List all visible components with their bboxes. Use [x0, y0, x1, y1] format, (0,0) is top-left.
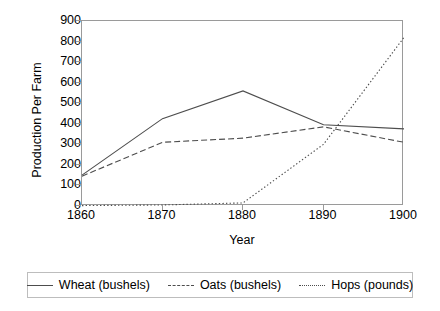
x-tick-label: 1870	[132, 209, 192, 222]
legend-item[interactable]: Wheat (bushels)	[27, 278, 150, 292]
legend-line-icon	[168, 281, 194, 289]
y-tick-label: 700	[37, 55, 81, 68]
series-line	[82, 127, 404, 176]
series-layer	[82, 21, 404, 206]
legend-item[interactable]: Hops (pounds)	[299, 278, 413, 292]
y-tick-label: 500	[37, 96, 81, 109]
x-tick-mark	[242, 205, 243, 210]
legend-label: Oats (bushels)	[200, 278, 281, 292]
x-tick-label: 1890	[293, 209, 353, 222]
y-tick-label: 900	[37, 14, 81, 27]
y-tick-mark	[76, 205, 81, 206]
legend-label: Wheat (bushels)	[59, 278, 150, 292]
y-tick-label: 300	[37, 137, 81, 150]
x-axis-title: Year	[81, 233, 403, 247]
y-tick-label: 100	[37, 178, 81, 191]
legend-label: Hops (pounds)	[331, 278, 413, 292]
legend: Wheat (bushels)Oats (bushels)Hops (pound…	[27, 272, 413, 298]
y-tick-label: 800	[37, 34, 81, 47]
legend-line-icon	[299, 281, 325, 289]
line-chart: Production Per Farm 01002003004005006007…	[0, 0, 440, 311]
plot-area	[81, 20, 403, 205]
plot-inner	[82, 21, 402, 204]
x-tick-mark	[162, 205, 163, 210]
y-tick-label: 400	[37, 117, 81, 130]
y-tick-label: 200	[37, 158, 81, 171]
y-tick-label: 600	[37, 75, 81, 88]
x-tick-mark	[323, 205, 324, 210]
legend-line-icon	[27, 281, 53, 289]
x-tick-label: 1860	[51, 209, 111, 222]
x-tick-label: 1900	[373, 209, 433, 222]
x-tick-label: 1880	[212, 209, 272, 222]
series-line	[82, 37, 404, 205]
y-axis-ticks: 0100200300400500600700800900	[0, 0, 81, 311]
legend-item[interactable]: Oats (bushels)	[168, 278, 281, 292]
